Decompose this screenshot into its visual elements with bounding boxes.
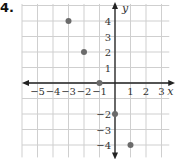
coordinate-plane: −5−4−3−2−11234321−2−3−4xy [0, 0, 175, 159]
x-tick-label: −1 [92, 86, 107, 97]
y-tick-label: 2 [105, 47, 111, 58]
data-point [128, 142, 134, 148]
y-tick-label: 1 [105, 63, 111, 74]
x-axis-label: x [167, 85, 174, 98]
y-tick-label: −3 [96, 125, 111, 136]
data-point [81, 49, 87, 55]
x-tick-label: −5 [30, 86, 45, 97]
x-tick-label: −3 [61, 86, 76, 97]
y-axis-down-arrow-icon [112, 152, 118, 159]
y-tick-label: 3 [105, 32, 111, 43]
data-point [97, 80, 103, 86]
x-axis-left-arrow-icon [22, 80, 29, 86]
x-tick-label: 3 [158, 86, 164, 97]
y-axis-label: y [121, 2, 129, 15]
x-tick-label: 1 [127, 86, 133, 97]
data-point [66, 18, 72, 24]
x-tick-label: −2 [77, 86, 92, 97]
x-tick-label: −4 [46, 86, 61, 97]
x-tick-label: 2 [143, 86, 149, 97]
y-tick-label: 4 [105, 16, 111, 27]
y-tick-label: −4 [96, 140, 111, 151]
y-tick-label: −2 [96, 109, 111, 120]
data-point [112, 111, 118, 117]
